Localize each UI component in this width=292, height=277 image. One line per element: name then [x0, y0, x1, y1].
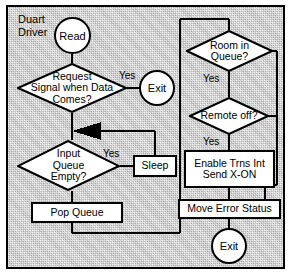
- node-exit-top-label: Exit: [148, 82, 166, 94]
- edge-label-yes-room: Yes: [203, 73, 219, 84]
- diagram-title-line2: Driver: [18, 26, 47, 39]
- node-room-in-queue-label: Room in Queue?: [210, 40, 249, 63]
- node-exit-bottom-label: Exit: [220, 240, 238, 252]
- node-pop-queue-label: Pop Queue: [50, 207, 103, 219]
- node-pop-queue[interactable]: Pop Queue: [31, 202, 123, 223]
- edge-label-yes-request: Yes: [119, 70, 135, 81]
- flowchart-canvas: Duart Driver Read Request Signal when Da…: [0, 0, 292, 277]
- node-sleep-label: Sleep: [142, 160, 169, 172]
- edge-label-yes-remote: Yes: [203, 136, 219, 147]
- node-enable-trns-int-line2: Send X-ON: [203, 169, 257, 181]
- node-exit-bottom[interactable]: Exit: [211, 228, 247, 264]
- node-sleep[interactable]: Sleep: [133, 155, 177, 177]
- edge-label-yes-input: Yes: [103, 148, 119, 159]
- node-read-label: Read: [59, 30, 85, 42]
- node-enable-trns-int[interactable]: Enable Trns Int Send X-ON: [184, 150, 275, 188]
- node-move-error-status[interactable]: Move Error Status: [178, 199, 281, 219]
- node-move-error-status-label: Move Error Status: [187, 203, 272, 215]
- node-input-queue-empty-line3: Empty?: [51, 171, 87, 183]
- diagram-title: Duart Driver: [18, 13, 47, 38]
- node-room-in-queue[interactable]: Room in Queue?: [186, 30, 273, 72]
- node-request-signal[interactable]: Request Signal when Data Comes?: [17, 63, 127, 113]
- node-request-signal-line3: Comes?: [31, 94, 113, 106]
- node-input-queue-empty-label: Input Queue Empty?: [51, 148, 87, 183]
- node-room-in-queue-line2: Queue?: [210, 51, 249, 63]
- diagram-title-line1: Duart: [18, 13, 47, 26]
- node-exit-top[interactable]: Exit: [139, 70, 175, 106]
- node-remote-off-line1: Remote off?: [200, 110, 257, 122]
- node-request-signal-label: Request Signal when Data Comes?: [31, 71, 113, 106]
- node-remote-off-label: Remote off?: [200, 110, 257, 122]
- node-read[interactable]: Read: [54, 17, 91, 54]
- loop-arrowhead: [74, 123, 100, 139]
- node-remote-off[interactable]: Remote off?: [189, 97, 269, 135]
